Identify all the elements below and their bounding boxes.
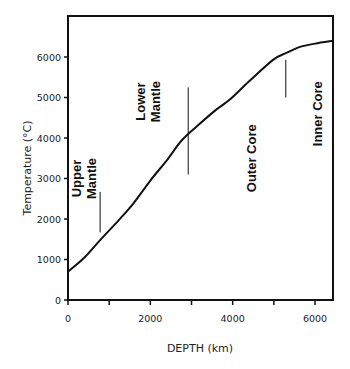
x-axis-ticks: 0200040006000: [65, 300, 327, 324]
temperature-depth-chart: 0100020003000400050006000 0200040006000 …: [0, 0, 350, 369]
svg-text:Inner Core: Inner Core: [310, 81, 325, 146]
y-tick-label: 0: [55, 295, 61, 306]
region-label-inner-core: Inner Core: [310, 81, 325, 146]
y-tick-label: 2000: [37, 214, 61, 225]
x-tick-label: 0: [65, 313, 71, 324]
y-axis-ticks: 0100020003000400050006000: [37, 52, 68, 306]
y-tick-label: 5000: [37, 92, 61, 103]
y-tick-label: 1000: [37, 254, 61, 265]
temperature-curve: [68, 41, 333, 272]
svg-text:Outer Core: Outer Core: [244, 124, 259, 192]
x-tick-label: 6000: [303, 313, 327, 324]
svg-text:Mantle: Mantle: [84, 158, 99, 199]
region-label-lower-mantle: LowerMantle: [133, 81, 163, 122]
region-labels: UpperMantleLowerMantleOuter CoreInner Co…: [69, 81, 324, 199]
svg-text:Upper: Upper: [69, 160, 84, 198]
region-label-outer-core: Outer Core: [244, 124, 259, 192]
plot-border: [68, 16, 333, 300]
y-axis-title: Temperature (°C): [21, 121, 34, 217]
region-label-upper-mantle: UpperMantle: [69, 158, 99, 199]
y-tick-label: 3000: [37, 173, 61, 184]
x-tick-label: 4000: [221, 313, 245, 324]
x-axis-title: DEPTH (km): [167, 342, 233, 355]
y-tick-label: 4000: [37, 133, 61, 144]
x-tick-label: 2000: [138, 313, 162, 324]
y-tick-label: 6000: [37, 52, 61, 63]
plot-frame: [68, 16, 333, 300]
svg-text:Mantle: Mantle: [148, 81, 163, 122]
svg-text:Lower: Lower: [133, 82, 148, 120]
